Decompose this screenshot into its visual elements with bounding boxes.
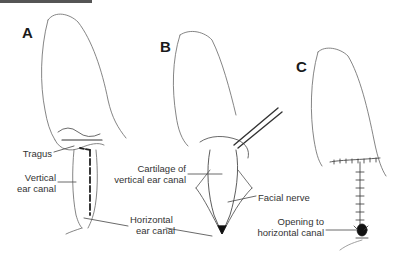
panel-a-letter: A xyxy=(22,24,33,41)
label-facial-nerve: Facial nerve xyxy=(258,192,310,203)
label-cartilage-1: Cartilage of xyxy=(110,163,186,174)
label-tragus: Tragus xyxy=(14,148,52,159)
panel-a-pinna xyxy=(42,14,128,234)
label-horizontal-ear-canal-1: Horizontal xyxy=(130,214,173,225)
label-vertical-ear-canal-1: Vertical xyxy=(6,172,56,183)
panel-c-letter: C xyxy=(296,58,307,75)
label-horizontal-ear-canal-2: ear canal xyxy=(136,225,175,236)
panel-b-letter: B xyxy=(160,38,171,55)
label-opening-2: horizontal canal xyxy=(240,227,324,238)
panel-b-pinna xyxy=(166,31,282,236)
label-cartilage-2: vertical ear canal xyxy=(100,174,186,185)
illustration xyxy=(0,0,415,263)
label-opening-1: Opening to xyxy=(240,216,324,227)
label-vertical-ear-canal-2: ear canal xyxy=(6,183,56,194)
